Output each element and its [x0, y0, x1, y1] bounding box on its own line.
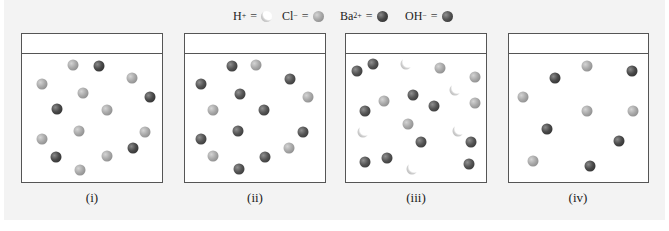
cl-ion-icon — [75, 165, 86, 176]
cl-ion-icon — [403, 119, 414, 130]
h-ion-icon — [358, 127, 369, 138]
legend-item-ba: Ba2+ = — [340, 6, 388, 26]
cl-ion-icon — [37, 79, 48, 90]
oh-ion-icon — [227, 61, 238, 72]
cl-ion-icon — [303, 92, 314, 103]
legend: H+ = Cl− = Ba2+ = OH− = — [0, 6, 669, 26]
cl-ion-icon — [102, 105, 113, 116]
legend-charge: 2+ — [353, 11, 362, 20]
ba-ion-icon — [51, 152, 62, 163]
legend-item-oh: OH− = — [405, 6, 453, 26]
oh-ion-icon — [285, 74, 296, 85]
cl-ion-icon — [582, 61, 593, 72]
legend-item-h: H+ = — [233, 6, 272, 26]
ba-ion-icon — [550, 73, 561, 84]
ba-ion-icon — [145, 92, 156, 103]
oh-ion-icon — [416, 137, 427, 148]
ba-ion-icon — [377, 11, 388, 22]
box-label-i: (i) — [62, 190, 122, 206]
oh-ion-icon — [352, 66, 363, 77]
legend-species: H — [233, 9, 242, 24]
ba-ion-icon — [94, 61, 105, 72]
oh-ion-icon — [466, 137, 477, 148]
cl-ion-icon — [140, 127, 151, 138]
legend-species: Ba — [340, 9, 353, 24]
oh-ion-icon — [368, 59, 379, 70]
box-header — [346, 34, 486, 54]
legend-charge: − — [422, 11, 427, 20]
box-label-iv: (iv) — [548, 190, 608, 206]
oh-ion-icon — [259, 105, 270, 116]
box-header — [22, 34, 162, 54]
legend-species: Cl — [282, 9, 293, 24]
oh-ion-icon — [298, 127, 309, 138]
legend-equals: = — [366, 9, 373, 24]
cl-ion-icon — [313, 11, 324, 22]
cl-ion-icon — [435, 63, 446, 74]
h-ion-icon — [407, 164, 418, 175]
h-ion-icon — [261, 11, 272, 22]
cl-ion-icon — [74, 126, 85, 137]
cl-ion-icon — [78, 88, 89, 99]
h-ion-icon — [450, 85, 461, 96]
ba-ion-icon — [52, 104, 63, 115]
cl-ion-icon — [582, 106, 593, 117]
legend-charge: + — [242, 11, 247, 20]
cl-ion-icon — [102, 151, 113, 162]
oh-ion-icon — [196, 79, 207, 90]
oh-ion-icon — [233, 126, 244, 137]
oh-ion-icon — [464, 159, 475, 170]
legend-item-cl: Cl− = — [282, 6, 324, 26]
ba-ion-icon — [128, 143, 139, 154]
beaker-box-i — [21, 33, 163, 183]
legend-species: OH — [405, 9, 422, 24]
oh-ion-icon — [382, 153, 393, 164]
legend-charge: − — [293, 11, 298, 20]
cl-ion-icon — [628, 106, 639, 117]
cl-ion-icon — [470, 72, 481, 83]
cl-ion-icon — [518, 92, 529, 103]
cl-ion-icon — [251, 60, 262, 71]
h-ion-icon — [401, 59, 412, 70]
cl-ion-icon — [379, 96, 390, 107]
box-label-ii: (ii) — [225, 190, 285, 206]
oh-ion-icon — [442, 11, 453, 22]
legend-equals: = — [431, 9, 438, 24]
ba-ion-icon — [542, 124, 553, 135]
ba-ion-icon — [614, 136, 625, 147]
ba-ion-icon — [585, 161, 596, 172]
oh-ion-icon — [196, 134, 207, 145]
cl-ion-icon — [208, 151, 219, 162]
oh-ion-icon — [408, 90, 419, 101]
cl-ion-icon — [127, 73, 138, 84]
oh-ion-icon — [429, 101, 440, 112]
oh-ion-icon — [360, 106, 371, 117]
cl-ion-icon — [208, 105, 219, 116]
oh-ion-icon — [260, 152, 271, 163]
legend-equals: = — [250, 9, 257, 24]
box-label-iii: (iii) — [386, 190, 446, 206]
box-header — [185, 34, 325, 54]
cl-ion-icon — [68, 60, 79, 71]
box-header — [509, 34, 648, 54]
cl-ion-icon — [470, 98, 481, 109]
ba-ion-icon — [627, 66, 638, 77]
cl-ion-icon — [37, 134, 48, 145]
legend-equals: = — [302, 9, 309, 24]
h-ion-icon — [453, 126, 464, 137]
oh-ion-icon — [234, 164, 245, 175]
oh-ion-icon — [235, 89, 246, 100]
beaker-box-ii — [184, 33, 326, 183]
cl-ion-icon — [284, 143, 295, 154]
oh-ion-icon — [360, 157, 371, 168]
cl-ion-icon — [528, 156, 539, 167]
